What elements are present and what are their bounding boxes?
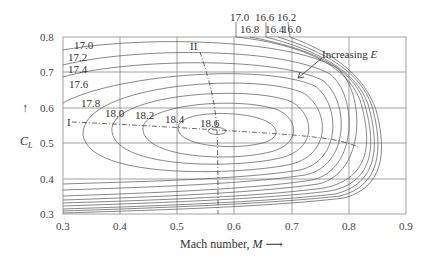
svg-text:18.2: 18.2 bbox=[135, 109, 154, 121]
line-II-label: II bbox=[190, 40, 198, 52]
svg-text:18.0: 18.0 bbox=[105, 107, 125, 119]
svg-text:17.6: 17.6 bbox=[69, 78, 89, 90]
svg-text:17.0: 17.0 bbox=[230, 11, 250, 23]
svg-text:16.0: 16.0 bbox=[282, 23, 302, 35]
svg-text:17.2: 17.2 bbox=[68, 51, 87, 63]
svg-text:0.5: 0.5 bbox=[40, 137, 54, 149]
y-axis-arrow: ↑ bbox=[22, 101, 28, 115]
contour-chart: 0.8 0.7 0.6 0.5 0.4 0.3 0.3 0.4 0.5 0.6 … bbox=[0, 0, 432, 260]
contour-18.4 bbox=[178, 113, 276, 146]
svg-text:0.4: 0.4 bbox=[40, 173, 54, 185]
svg-text:16.2: 16.2 bbox=[277, 11, 296, 23]
contour-labels: 17.0 17.2 17.4 17.6 17.8 18.0 18.2 18.4 … bbox=[68, 11, 302, 129]
svg-text:0.9: 0.9 bbox=[399, 220, 413, 232]
svg-text:0.6: 0.6 bbox=[227, 220, 241, 232]
svg-text:16.8: 16.8 bbox=[240, 23, 260, 35]
svg-text:0.8: 0.8 bbox=[40, 31, 54, 43]
svg-text:0.7: 0.7 bbox=[40, 66, 54, 78]
increasing-e-label: Increasing E bbox=[322, 48, 378, 60]
contour-18.2 bbox=[143, 103, 294, 157]
y-axis-title: CL bbox=[20, 134, 33, 150]
svg-text:0.8: 0.8 bbox=[342, 220, 356, 232]
svg-text:17.8: 17.8 bbox=[81, 97, 101, 109]
svg-text:17.0: 17.0 bbox=[74, 39, 94, 51]
svg-text:16.6: 16.6 bbox=[255, 11, 275, 23]
y-tick-labels: 0.8 0.7 0.6 0.5 0.4 0.3 bbox=[40, 31, 54, 220]
x-axis-title: Mach number, M ⟶ bbox=[180, 237, 283, 251]
svg-text:18.4: 18.4 bbox=[165, 113, 185, 125]
svg-text:17.4: 17.4 bbox=[68, 63, 88, 75]
optimum-lines bbox=[72, 52, 360, 214]
svg-text:0.6: 0.6 bbox=[40, 102, 54, 114]
line-I-label: I bbox=[67, 116, 71, 128]
svg-text:0.3: 0.3 bbox=[40, 208, 54, 220]
svg-text:18.6: 18.6 bbox=[200, 117, 220, 129]
svg-text:0.5: 0.5 bbox=[170, 220, 184, 232]
svg-text:0.7: 0.7 bbox=[285, 220, 299, 232]
x-tick-labels: 0.3 0.4 0.5 0.6 0.7 0.8 0.9 bbox=[56, 220, 413, 232]
svg-text:0.4: 0.4 bbox=[113, 220, 127, 232]
svg-text:0.3: 0.3 bbox=[56, 220, 70, 232]
